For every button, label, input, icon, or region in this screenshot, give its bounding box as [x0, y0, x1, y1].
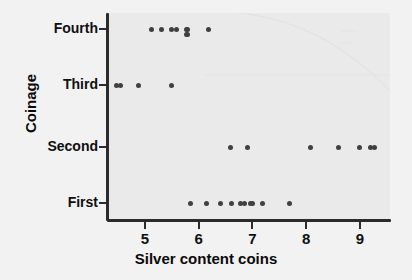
y-tick-mark	[99, 28, 107, 30]
x-tick-mark	[305, 222, 307, 229]
data-point	[204, 201, 209, 206]
data-point	[159, 27, 164, 32]
x-tick-label: 6	[184, 230, 214, 247]
x-tick-mark	[144, 222, 146, 229]
data-point	[185, 32, 190, 37]
data-point	[229, 201, 234, 206]
data-point	[260, 201, 265, 206]
x-tick-mark	[359, 222, 361, 229]
data-point	[169, 83, 174, 88]
x-tick-label: 5	[130, 230, 160, 247]
data-point	[245, 145, 250, 150]
data-point	[287, 201, 292, 206]
y-tick-mark	[99, 146, 107, 148]
scatter-chart-figure: 56789 FourthThirdSecondFirst Silver cont…	[0, 0, 412, 280]
data-point	[228, 145, 233, 150]
y-axis-line	[106, 13, 109, 221]
x-tick-label: 7	[237, 230, 267, 247]
data-point	[372, 145, 377, 150]
x-tick-mark	[251, 222, 253, 229]
data-point	[250, 201, 255, 206]
data-point	[118, 83, 123, 88]
data-point	[336, 145, 341, 150]
y-tick-label-first: First	[8, 195, 98, 210]
x-tick-mark	[198, 222, 200, 229]
data-point	[188, 201, 193, 206]
y-axis-title: Coinage	[22, 34, 39, 174]
x-tick-label: 8	[291, 230, 321, 247]
y-tick-mark	[99, 84, 107, 86]
data-point	[149, 27, 154, 32]
y-tick-mark	[99, 202, 107, 204]
data-point	[242, 201, 247, 206]
data-point	[357, 145, 362, 150]
x-axis-title: Silver content coins	[0, 250, 412, 267]
plot-area	[108, 13, 390, 220]
x-tick-label: 9	[345, 230, 375, 247]
background-watermark-icon	[108, 13, 390, 220]
data-point	[218, 201, 223, 206]
data-point	[185, 27, 190, 32]
data-point	[136, 83, 141, 88]
data-point	[174, 27, 179, 32]
data-point	[308, 145, 313, 150]
data-point	[206, 27, 211, 32]
x-axis-line	[107, 219, 391, 222]
